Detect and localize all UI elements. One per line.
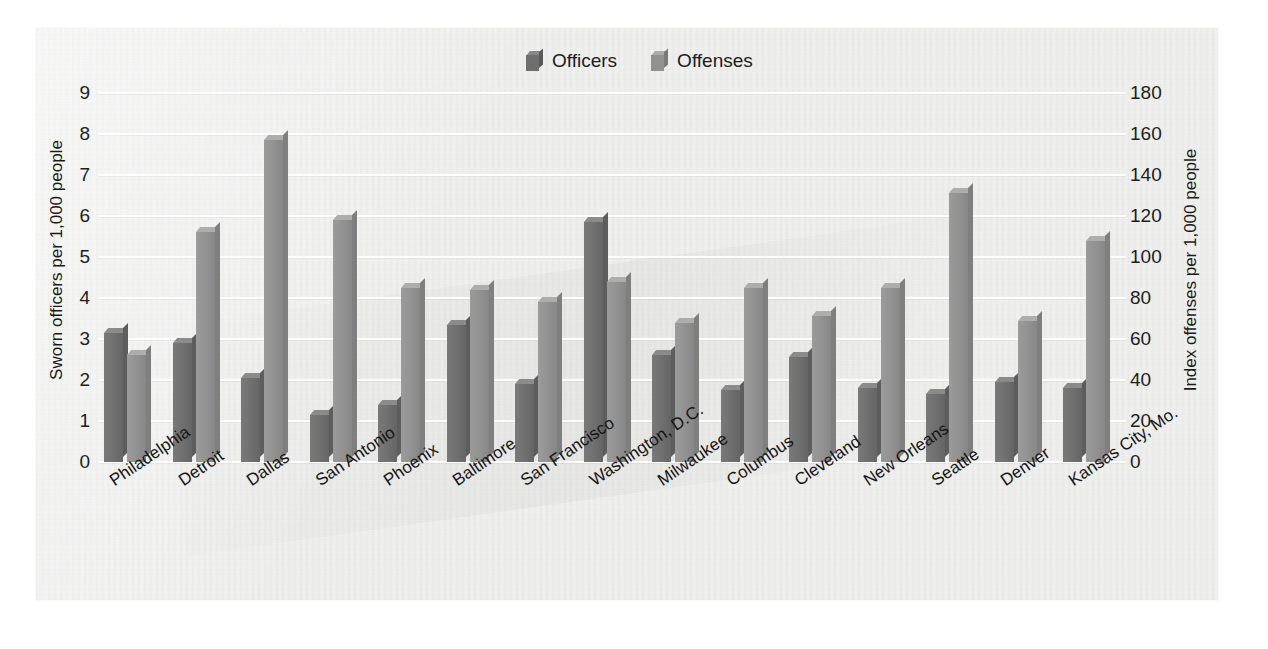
bar-series-group: [36, 28, 1218, 600]
bar-officers-dallas: [241, 378, 260, 462]
bar-offenses-denver: [1018, 321, 1037, 462]
bar-officers-kansas-city-mo: [1063, 388, 1082, 462]
bar-officers-denver: [995, 382, 1014, 462]
bar-officers-philadelphia: [104, 333, 123, 462]
bar-offenses-detroit: [196, 232, 215, 462]
bar-offenses-seattle: [949, 193, 968, 462]
bar-offenses-san-francisco: [538, 302, 557, 462]
bar-offenses-dallas: [264, 140, 283, 462]
plot-area: 0123456789 020406080100120140160180 Swor…: [36, 28, 1218, 600]
bar-offenses-cleveland: [812, 316, 831, 462]
bar-offenses-phoenix: [401, 288, 420, 462]
chart-panel: 0123456789 020406080100120140160180 Swor…: [36, 28, 1218, 600]
bar-offenses-columbus: [744, 288, 763, 462]
bar-officers-san-antonio: [310, 415, 329, 462]
bar-offenses-kansas-city-mo: [1086, 241, 1105, 462]
bar-offenses-philadelphia: [127, 355, 146, 462]
chart-page: 0123456789 020406080100120140160180 Swor…: [0, 0, 1268, 649]
bar-offenses-san-antonio: [333, 220, 352, 462]
bar-offenses-baltimore: [470, 290, 489, 462]
bar-officers-baltimore: [447, 325, 466, 462]
bar-offenses-milwaukee: [675, 323, 694, 462]
bar-offenses-new-orleans: [881, 288, 900, 462]
